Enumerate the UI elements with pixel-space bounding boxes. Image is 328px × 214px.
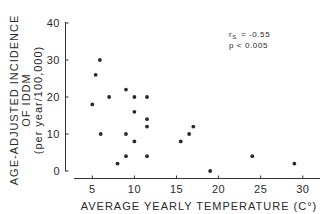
data-point [133, 110, 137, 114]
y-tick-label: 10 [47, 128, 60, 140]
y-axis: 010203040 [47, 17, 69, 177]
y-tick-label: 40 [47, 17, 60, 29]
data-point [145, 125, 149, 129]
data-point [187, 132, 191, 136]
data-point [208, 169, 212, 173]
data-point [179, 140, 183, 144]
x-tick-label: 30 [296, 183, 309, 195]
data-point [145, 154, 149, 158]
data-point [99, 132, 103, 136]
data-point [145, 117, 149, 121]
spearman-r: rS= -0.55 [229, 30, 270, 40]
data-point [191, 125, 195, 129]
data-point [133, 140, 137, 144]
data-point [292, 162, 296, 166]
data-point [116, 162, 120, 166]
correlation-annotation: rS= -0.55 p < 0.005 [229, 30, 270, 50]
data-point [124, 132, 128, 136]
data-points [90, 58, 296, 173]
y-tick-label: 0 [53, 165, 60, 177]
data-point [250, 154, 254, 158]
y-axis-title: AGE-ADJUSTED INCIDENCE OF IDDM (per year… [8, 15, 44, 186]
data-point [124, 154, 128, 158]
data-point [94, 73, 98, 77]
data-point [124, 88, 128, 92]
y-tick-label: 30 [47, 54, 60, 66]
scatter-chart: AGE-ADJUSTED INCIDENCE OF IDDM (per year… [0, 0, 328, 214]
x-tick-label: 20 [212, 183, 225, 195]
x-tick-label: 25 [254, 183, 267, 195]
x-axis: 51015202530 [74, 176, 320, 196]
data-point [90, 103, 94, 107]
data-point [145, 95, 149, 99]
y-axis-title-line-3: (per year/100,000) [32, 46, 44, 155]
y-tick-label: 20 [47, 91, 60, 103]
data-point [98, 58, 102, 62]
x-tick-label: 15 [170, 183, 183, 195]
data-point [133, 95, 137, 99]
x-axis-title: AVERAGE YEARLY TEMPERATURE (C°) [81, 200, 318, 212]
y-axis-title-line-2: OF IDDM [20, 73, 32, 126]
x-tick-label: 10 [128, 183, 141, 195]
x-tick-label: 5 [89, 183, 96, 195]
y-axis-title-line-1: AGE-ADJUSTED INCIDENCE [8, 15, 20, 186]
p-value: p < 0.005 [229, 41, 268, 50]
data-point [107, 95, 111, 99]
